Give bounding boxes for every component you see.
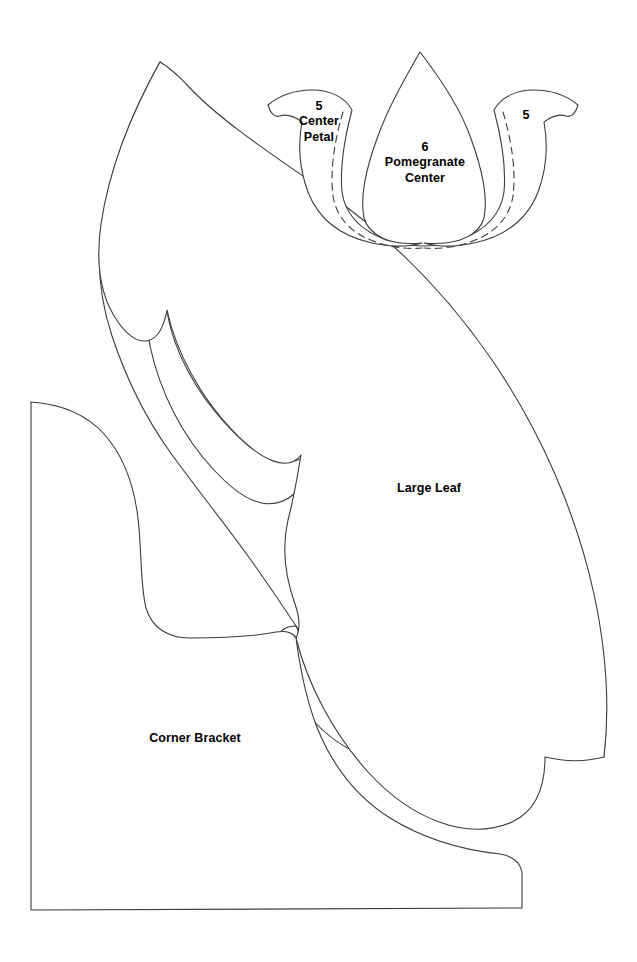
label-large-leaf: Large Leaf	[364, 481, 494, 496]
label-center-petal: 5 Center Petal	[269, 99, 369, 145]
label-right-petal: 5	[496, 108, 556, 123]
label-pomegranate-center: 6 Pomegranate Center	[365, 140, 485, 186]
label-corner-bracket: Corner Bracket	[109, 731, 281, 746]
pattern-sheet: 5 Center Petal 6 Pomegranate Center 5 La…	[0, 0, 637, 962]
